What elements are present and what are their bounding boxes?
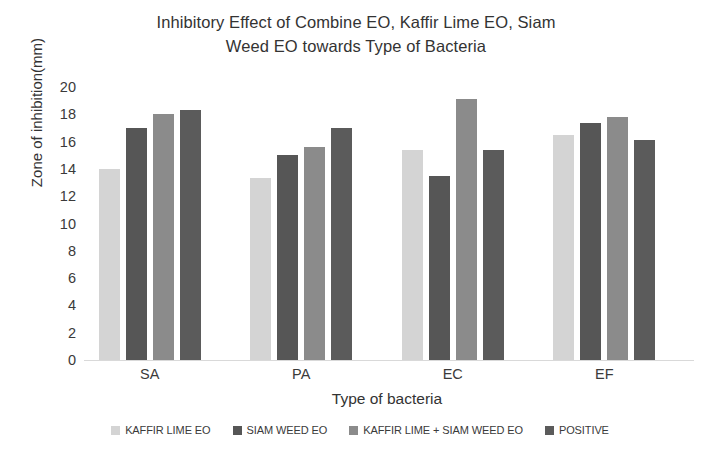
x-axis-tick-label: SA bbox=[140, 366, 159, 382]
bar[interactable] bbox=[607, 117, 628, 360]
x-axis-title: Type of bacteria bbox=[84, 390, 690, 408]
bar[interactable] bbox=[304, 147, 325, 360]
bar-chart-figure: Inhibitory Effect of Combine EO, Kaffir … bbox=[0, 0, 712, 466]
legend-color-swatch-icon bbox=[111, 426, 120, 435]
bar[interactable] bbox=[250, 178, 271, 360]
bar[interactable] bbox=[429, 176, 450, 360]
bar[interactable] bbox=[634, 140, 655, 360]
legend-color-swatch-icon bbox=[233, 426, 242, 435]
y-axis-tick-label: 2 bbox=[40, 326, 76, 340]
y-axis-tick-label: 14 bbox=[40, 162, 76, 176]
y-axis-tick-label: 18 bbox=[40, 107, 76, 121]
legend-label: POSITIVE bbox=[559, 424, 609, 436]
x-axis-tick-labels: SAPAECEF bbox=[84, 366, 690, 388]
chart-title-line-1: Inhibitory Effect of Combine EO, Kaffir … bbox=[86, 10, 626, 34]
legend-item[interactable]: KAFFIR LIME + SIAM WEED EO bbox=[349, 424, 523, 436]
bar[interactable] bbox=[126, 128, 147, 360]
y-axis-tick-label: 6 bbox=[40, 271, 76, 285]
chart-legend: KAFFIR LIME EOSIAM WEED EOKAFFIR LIME + … bbox=[30, 424, 690, 436]
x-axis-baseline bbox=[84, 360, 694, 361]
legend-item[interactable]: KAFFIR LIME EO bbox=[111, 424, 210, 436]
bar-group bbox=[553, 87, 655, 360]
chart-title-line-2: Weed EO towards Type of Bacteria bbox=[86, 34, 626, 58]
x-axis-tick-label: EF bbox=[595, 366, 614, 382]
legend-label: KAFFIR LIME + SIAM WEED EO bbox=[363, 424, 523, 436]
legend-color-swatch-icon bbox=[545, 426, 554, 435]
legend-item[interactable]: SIAM WEED EO bbox=[233, 424, 328, 436]
chart-title: Inhibitory Effect of Combine EO, Kaffir … bbox=[86, 10, 626, 58]
bar[interactable] bbox=[331, 128, 352, 360]
legend-label: KAFFIR LIME EO bbox=[125, 424, 210, 436]
bar[interactable] bbox=[99, 169, 120, 360]
bar[interactable] bbox=[553, 135, 574, 360]
plot-area bbox=[84, 87, 690, 360]
legend-label: SIAM WEED EO bbox=[247, 424, 328, 436]
y-axis-tick-label: 20 bbox=[40, 80, 76, 94]
y-axis-tick-label: 0 bbox=[40, 353, 76, 367]
bar[interactable] bbox=[402, 150, 423, 360]
y-axis-tick-label: 8 bbox=[40, 244, 76, 258]
bar[interactable] bbox=[277, 155, 298, 360]
y-axis-tick-label: 12 bbox=[40, 189, 76, 203]
y-axis-tick-labels: 20181614121086420 bbox=[40, 87, 76, 360]
y-axis-tick-label: 16 bbox=[40, 135, 76, 149]
bar-group bbox=[402, 87, 504, 360]
bar[interactable] bbox=[180, 110, 201, 360]
legend-color-swatch-icon bbox=[349, 426, 358, 435]
y-axis-tick-label: 10 bbox=[40, 217, 76, 231]
bar[interactable] bbox=[456, 99, 477, 360]
bar[interactable] bbox=[483, 150, 504, 360]
bar-group bbox=[250, 87, 352, 360]
y-axis-tick-label: 4 bbox=[40, 298, 76, 312]
bar[interactable] bbox=[580, 123, 601, 361]
bar[interactable] bbox=[153, 114, 174, 360]
x-axis-tick-label: PA bbox=[292, 366, 310, 382]
bar-group bbox=[99, 87, 201, 360]
x-axis-tick-label: EC bbox=[443, 366, 463, 382]
legend-item[interactable]: POSITIVE bbox=[545, 424, 609, 436]
